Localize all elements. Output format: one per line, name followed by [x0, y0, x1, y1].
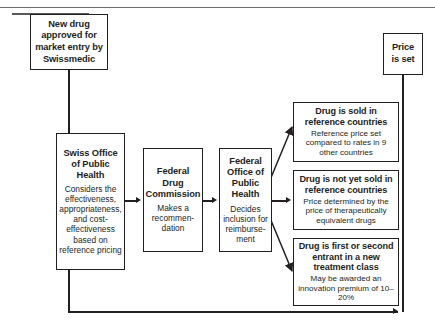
- node-new-drug[interactable]: New drug approved for market entry by Sw…: [30, 14, 108, 70]
- node-outcome-drug-is-sold[interactable]: Drug is sold in reference countries Refe…: [293, 102, 399, 162]
- node-outcome-sold-body: Reference price set compared to rates in…: [297, 129, 395, 158]
- node-federal-drug-commission-body: Makes a recommen-dation: [147, 203, 199, 234]
- node-outcome-new-treatment-class[interactable]: Drug is first or second entrant in a new…: [293, 238, 399, 306]
- node-outcome-entrant-body: May be awarded an innovation premium of …: [297, 274, 395, 303]
- node-outcome-entrant-heading: Drug is first or second entrant in a new…: [297, 241, 395, 273]
- node-outcome-not-sold-body: Price determined by the price of therape…: [297, 197, 395, 226]
- node-swiss-office-of-public-health[interactable]: Swiss Office of Public Health Considers …: [56, 133, 125, 270]
- node-outcome-drug-not-yet-sold[interactable]: Drug is not yet sold in reference countr…: [293, 170, 399, 230]
- arrowhead-foph-to-notsold: [286, 197, 291, 203]
- node-price-set[interactable]: Price is set: [383, 33, 423, 75]
- node-price-set-heading: Price is set: [387, 42, 419, 65]
- connector-bottom-rail: [68, 311, 398, 313]
- arrowhead-sfoph-to-fdc: [136, 197, 141, 203]
- node-federal-drug-commission[interactable]: Federal Drug Commission Makes a recommen…: [143, 148, 203, 252]
- top-rule: [0, 7, 435, 8]
- node-outcome-sold-heading: Drug is sold in reference countries: [297, 106, 395, 127]
- arrowhead-fdc-to-foph: [212, 197, 217, 203]
- node-swiss-office-heading: Swiss Office of Public Health: [60, 148, 121, 182]
- arrowhead-bottom-rail: [393, 308, 398, 314]
- connector-price-down: [402, 75, 404, 312]
- flowchart-diagram: New drug approved for market entry by Sw…: [0, 0, 435, 335]
- node-federal-office-of-public-health[interactable]: Federal Office of Public Health Decides …: [219, 148, 272, 252]
- node-new-drug-heading: New drug approved for market entry by Sw…: [34, 19, 104, 65]
- node-federal-drug-commission-heading: Federal Drug Commission: [146, 166, 201, 200]
- node-outcome-not-sold-heading: Drug is not yet sold in reference countr…: [297, 174, 395, 195]
- node-swiss-office-body: Considers the effectiveness, appropriate…: [59, 184, 121, 255]
- node-federal-office-body: Decides inclusion for reimburse-ment: [223, 204, 268, 245]
- node-federal-office-heading: Federal Office of Public Health: [223, 156, 268, 201]
